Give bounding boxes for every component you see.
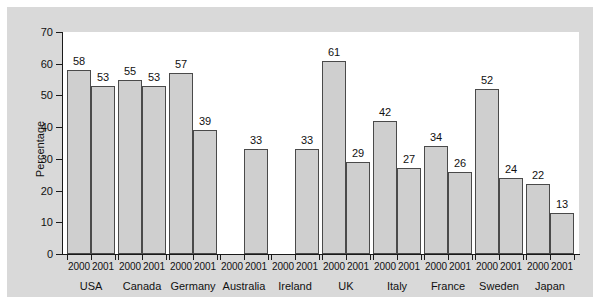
chart-panel: Percentage 010203040506070 5853555357393…: [7, 7, 593, 297]
bar: [67, 70, 91, 254]
bar-value-label: 58: [59, 56, 99, 67]
bar-value-label: 34: [416, 132, 456, 143]
x-year-label: 2001: [542, 262, 582, 272]
x-tick-mark: [322, 255, 323, 260]
x-tick-mark: [193, 255, 194, 260]
x-tick-mark: [319, 255, 320, 260]
bar: [295, 149, 319, 254]
x-tick-mark: [370, 255, 371, 260]
bar-value-label: 27: [389, 154, 429, 165]
bar-value-label: 61: [314, 47, 354, 58]
x-tick-mark: [448, 255, 449, 260]
y-tick-label: 50: [41, 90, 53, 101]
bar: [142, 86, 166, 254]
x-tick-mark: [295, 255, 296, 260]
x-tick-mark: [142, 255, 143, 260]
bar: [169, 73, 193, 254]
x-tick-mark: [421, 255, 422, 260]
x-tick-mark: [115, 255, 116, 260]
bar-value-label: 53: [134, 72, 174, 83]
x-tick-mark: [346, 255, 347, 260]
y-tick-label: 20: [41, 186, 53, 197]
bar-value-label: 42: [365, 107, 405, 118]
bar-value-label: 22: [518, 170, 558, 181]
y-tick-mark: [56, 127, 62, 128]
bar: [244, 149, 268, 254]
x-axis-line: [62, 254, 580, 255]
bar: [448, 172, 472, 254]
x-tick-mark: [526, 255, 527, 260]
x-tick-mark: [574, 255, 575, 260]
y-tick-mark: [56, 254, 62, 255]
y-tick-label: 40: [41, 122, 53, 133]
x-tick-mark: [499, 255, 500, 260]
bar-value-label: 26: [440, 158, 480, 169]
bar: [346, 162, 370, 254]
y-tick-mark: [56, 32, 62, 33]
bar-value-label: 33: [236, 135, 276, 146]
y-tick-mark: [56, 191, 62, 192]
x-tick-mark: [472, 255, 473, 260]
y-tick-label: 0: [47, 249, 53, 260]
bar: [397, 168, 421, 254]
x-tick-mark: [67, 255, 68, 260]
bar-value-label: 39: [185, 116, 225, 127]
bar: [550, 213, 574, 254]
bar-value-label: 29: [338, 148, 378, 159]
x-tick-mark: [475, 255, 476, 260]
x-tick-mark: [268, 255, 269, 260]
x-tick-mark: [169, 255, 170, 260]
x-tick-mark: [397, 255, 398, 260]
x-tick-mark: [217, 255, 218, 260]
y-tick-label: 10: [41, 217, 53, 228]
x-tick-mark: [91, 255, 92, 260]
y-tick-label: 70: [41, 27, 53, 38]
y-tick-mark: [56, 159, 62, 160]
x-tick-mark: [523, 255, 524, 260]
x-tick-mark: [118, 255, 119, 260]
x-tick-mark: [271, 255, 272, 260]
x-tick-mark: [424, 255, 425, 260]
bar: [526, 184, 550, 254]
y-axis-title: Percentage: [34, 104, 46, 194]
bar: [118, 80, 142, 254]
x-country-label: Japan: [510, 281, 590, 292]
y-tick-label: 30: [41, 154, 53, 165]
y-tick-mark: [56, 95, 62, 96]
y-tick-label: 60: [41, 59, 53, 70]
bar-value-label: 52: [467, 75, 507, 86]
x-tick-mark: [373, 255, 374, 260]
x-tick-mark: [220, 255, 221, 260]
bar: [373, 121, 397, 254]
y-tick-mark: [56, 222, 62, 223]
bar-value-label: 33: [287, 135, 327, 146]
bar: [193, 130, 217, 254]
x-tick-mark: [166, 255, 167, 260]
bar-value-label: 13: [542, 199, 582, 210]
bar: [91, 86, 115, 254]
x-tick-mark: [244, 255, 245, 260]
x-tick-mark: [550, 255, 551, 260]
bar-value-label: 57: [161, 59, 201, 70]
bar: [499, 178, 523, 254]
chart-figure: Percentage 010203040506070 5853555357393…: [0, 0, 600, 306]
